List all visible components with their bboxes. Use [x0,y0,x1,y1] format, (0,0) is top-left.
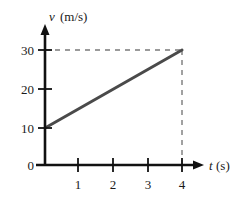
y-axis-label-unit: (m/s) [60,9,87,24]
y-axis-label: v (m/s) [49,9,87,24]
x-tick-label-4: 4 [179,177,186,192]
y-tick-label-20: 20 [21,82,34,97]
x-tick-label-1: 1 [75,177,82,192]
y-tick-label-0: 0 [28,158,35,173]
x-axis-label-symbol: t [209,158,213,173]
y-axis-label-symbol: v [49,9,55,24]
x-axis-label-unit: (s) [216,158,230,173]
x-tick-label-2: 2 [110,177,117,192]
y-tick-label-10: 10 [21,121,34,136]
chart-canvas: 30 20 10 0 1 2 3 4 v (m/s) t (s) [0,0,238,201]
velocity-time-graph-figure: 30 20 10 0 1 2 3 4 v (m/s) t (s) [0,0,238,201]
y-tick-label-30: 30 [21,43,34,58]
x-axis-label: t (s) [209,158,230,173]
x-tick-label-3: 3 [145,177,152,192]
figure-background [0,0,238,201]
